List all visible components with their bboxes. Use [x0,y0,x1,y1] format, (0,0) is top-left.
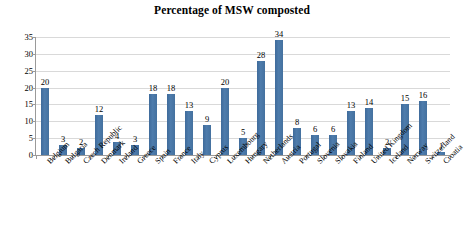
bar-value-label: 28 [257,51,266,60]
y-axis-tick-label: 30 [1,50,33,59]
y-axis-tick-label: 10 [1,117,33,126]
x-axis-labels: BelgiumBulgariaCzech RepublicDenmarkIrel… [36,160,450,230]
y-axis-tick-label: 25 [1,67,33,76]
bar-value-label: 6 [313,125,317,134]
bar-group: 18 [162,37,180,155]
y-axis-tick-label: 20 [1,84,33,93]
bar-group: 13 [342,37,360,155]
bar-value-label: 5 [241,128,245,137]
bar-group: 3 [54,37,72,155]
y-axis-tick-label: 15 [1,100,33,109]
plot-area: 20321243181813920528348661314215161 [36,37,450,155]
bar-value-label: 16 [419,91,428,100]
x-axis-tick-mark [36,156,37,159]
y-axis-tick-label: 0 [1,151,33,160]
bar-value-label: 20 [221,78,230,87]
bar-value-label: 34 [275,30,284,39]
bar-group: 20 [216,37,234,155]
bar-value-label: 18 [167,84,176,93]
bar-value-label: 14 [365,98,374,107]
bar-value-label: 18 [149,84,158,93]
bar-value-label: 15 [401,94,410,103]
bar-group: 14 [360,37,378,155]
bar-group: 2 [72,37,90,155]
bar [167,94,175,155]
bar-group: 9 [198,37,216,155]
bar-value-label: 20 [41,78,50,87]
chart-title: Percentage of MSW composted [0,4,464,16]
bar-group: 20 [36,37,54,155]
bar-value-label: 13 [185,101,194,110]
bar-value-label: 8 [295,118,299,127]
bar-group: 6 [324,37,342,155]
y-axis-tick-label: 5 [1,134,33,143]
bar-group: 6 [306,37,324,155]
y-axis: 05101520253035 [0,37,33,156]
bar [41,88,49,155]
bar [203,125,211,155]
y-axis-tick-label: 35 [1,33,33,42]
chart-container: Percentage of MSW composted 051015202530… [0,0,464,230]
bar-group: 3 [126,37,144,155]
bar-value-label: 6 [331,125,335,134]
bar-group: 13 [180,37,198,155]
bar-group: 18 [144,37,162,155]
bar-group: 16 [414,37,432,155]
bar-value-label: 13 [347,101,356,110]
bar-value-label: 12 [95,105,104,114]
bar-value-label: 9 [205,115,209,124]
